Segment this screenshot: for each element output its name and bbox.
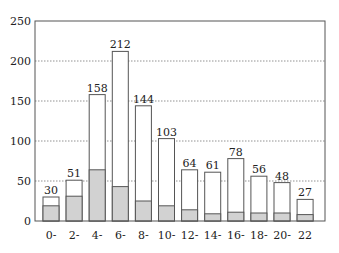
x-tick-label: 18-: [250, 229, 268, 242]
bar-value-label: 78: [229, 146, 243, 159]
x-tick-label: 0-: [46, 229, 57, 242]
x-tick-label: 4-: [92, 229, 103, 242]
x-tick-label: 22: [298, 229, 312, 242]
bar-shaded: [112, 187, 128, 221]
x-tick-label: 12-: [181, 229, 199, 242]
x-tick-label: 8-: [138, 229, 149, 242]
bar-value-label: 51: [67, 167, 81, 180]
bar-value-label: 56: [252, 163, 266, 176]
bar-value-label: 158: [87, 82, 108, 95]
x-axis-ticks: 0-2-4-6-8-10-12-14-16-18-20-22: [46, 229, 312, 242]
y-tick-label: 250: [10, 15, 31, 28]
x-tick-label: 6-: [115, 229, 126, 242]
bar-value-label: 212: [110, 38, 131, 51]
bar-value-label: 27: [298, 186, 312, 199]
bar-value-label: 64: [183, 157, 197, 170]
bar-chart: 050100150200250 0-2-4-6-8-10-12-14-16-18…: [0, 0, 339, 253]
bar-shaded: [182, 210, 198, 221]
x-tick-label: 10-: [158, 229, 176, 242]
x-tick-label: 14-: [204, 229, 222, 242]
bar-shaded: [89, 170, 105, 221]
y-tick-label: 200: [10, 55, 31, 68]
bar-shaded: [297, 215, 313, 221]
y-tick-label: 150: [10, 95, 31, 108]
bar-total: [228, 159, 244, 221]
bars: [43, 51, 313, 221]
bar-shaded: [135, 201, 151, 221]
bar-shaded: [251, 213, 267, 221]
bar-shaded: [159, 206, 175, 221]
bar-shaded: [43, 206, 59, 221]
bar-value-label: 144: [133, 93, 154, 106]
bar-value-label: 48: [275, 170, 289, 183]
y-axis-ticks: 050100150200250: [10, 15, 31, 228]
y-tick-label: 0: [24, 215, 31, 228]
bar-shaded: [66, 196, 82, 221]
y-tick-label: 100: [10, 135, 31, 148]
x-tick-label: 2-: [69, 229, 80, 242]
x-tick-label: 20-: [273, 229, 291, 242]
bar-value-label: 103: [156, 126, 177, 139]
bar-value-label: 61: [206, 159, 220, 172]
bar-value-label: 30: [44, 184, 58, 197]
y-tick-label: 50: [17, 175, 31, 188]
bar-shaded: [205, 214, 221, 221]
x-tick-label: 16-: [227, 229, 245, 242]
gridlines: [35, 61, 325, 181]
bar-shaded: [228, 212, 244, 221]
bar-shaded: [274, 213, 290, 221]
value-labels: 3051158212144103646178564827: [44, 38, 312, 199]
